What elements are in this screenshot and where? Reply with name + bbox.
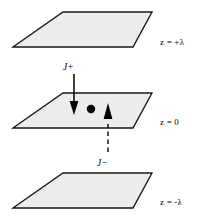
plane-label-z-minus-lambda: z = -λ bbox=[160, 197, 182, 207]
figure-canvas bbox=[0, 0, 208, 224]
plane-label-z-plus-lambda: z = +λ bbox=[160, 37, 184, 47]
current-label-j-plus: J+ bbox=[63, 62, 74, 72]
current-sheets-figure: z = +λ z = 0 z = -λ J+ J− bbox=[0, 0, 208, 224]
plane-bottom bbox=[13, 173, 152, 208]
plane-middle bbox=[13, 93, 152, 128]
plane-top bbox=[13, 12, 152, 47]
field-point-dot bbox=[87, 105, 95, 113]
current-label-j-minus: J− bbox=[97, 158, 108, 168]
plane-label-z-zero: z = 0 bbox=[160, 117, 179, 127]
